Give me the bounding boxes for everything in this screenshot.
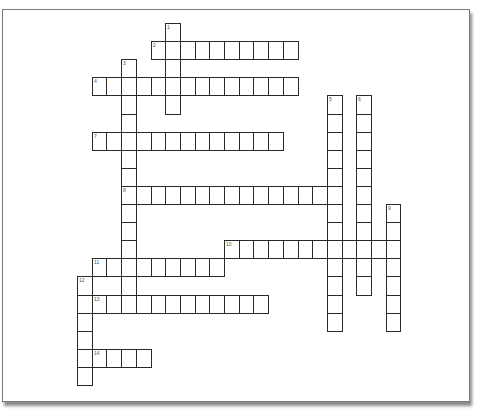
crossword-cell[interactable] bbox=[386, 276, 401, 296]
crossword-cell[interactable] bbox=[121, 276, 137, 296]
crossword-cell[interactable] bbox=[165, 95, 181, 115]
crossword-cell[interactable] bbox=[224, 186, 240, 205]
crossword-cell[interactable] bbox=[342, 240, 357, 259]
crossword-cell[interactable] bbox=[268, 186, 284, 205]
crossword-cell[interactable] bbox=[106, 77, 122, 96]
crossword-cell[interactable] bbox=[195, 186, 210, 205]
crossword-cell[interactable] bbox=[195, 77, 210, 96]
crossword-cell[interactable] bbox=[77, 349, 93, 368]
crossword-cell[interactable] bbox=[386, 222, 401, 241]
crossword-cell[interactable] bbox=[136, 77, 152, 96]
crossword-cell[interactable] bbox=[327, 222, 343, 241]
crossword-cell[interactable] bbox=[283, 77, 299, 96]
crossword-cell[interactable] bbox=[165, 41, 181, 60]
crossword-cell[interactable] bbox=[165, 59, 181, 78]
crossword-cell[interactable] bbox=[106, 295, 122, 314]
crossword-cell[interactable] bbox=[283, 240, 299, 259]
crossword-cell[interactable] bbox=[253, 77, 269, 96]
crossword-cell[interactable] bbox=[239, 295, 254, 314]
crossword-cell[interactable]: 8 bbox=[121, 186, 137, 205]
crossword-cell[interactable] bbox=[136, 349, 152, 368]
crossword-cell[interactable]: 1 bbox=[165, 23, 181, 42]
crossword-cell[interactable] bbox=[106, 258, 122, 277]
crossword-cell[interactable] bbox=[165, 77, 181, 96]
crossword-cell[interactable]: 6 bbox=[356, 95, 372, 115]
crossword-cell[interactable] bbox=[371, 240, 387, 259]
crossword-cell[interactable] bbox=[209, 258, 225, 277]
crossword-cell[interactable] bbox=[356, 114, 372, 133]
crossword-cell[interactable] bbox=[298, 240, 313, 259]
crossword-cell[interactable] bbox=[77, 331, 93, 350]
crossword-cell[interactable] bbox=[253, 240, 269, 259]
crossword-cell[interactable] bbox=[165, 295, 181, 314]
crossword-cell[interactable] bbox=[209, 132, 225, 151]
crossword-cell[interactable] bbox=[239, 186, 254, 205]
crossword-cell[interactable] bbox=[180, 295, 196, 314]
crossword-cell[interactable] bbox=[121, 114, 137, 133]
crossword-cell[interactable]: 14 bbox=[92, 349, 107, 368]
crossword-cell[interactable] bbox=[253, 132, 269, 151]
crossword-cell[interactable] bbox=[151, 295, 166, 314]
crossword-cell[interactable] bbox=[195, 41, 210, 60]
crossword-cell[interactable] bbox=[312, 240, 328, 259]
crossword-cell[interactable] bbox=[327, 168, 343, 187]
crossword-cell[interactable] bbox=[268, 41, 284, 60]
crossword-cell[interactable] bbox=[386, 240, 401, 259]
crossword-cell[interactable] bbox=[253, 186, 269, 205]
crossword-cell[interactable] bbox=[386, 313, 401, 332]
crossword-cell[interactable] bbox=[180, 77, 196, 96]
crossword-cell[interactable]: 12 bbox=[77, 276, 93, 296]
crossword-cell[interactable] bbox=[224, 77, 240, 96]
crossword-cell[interactable] bbox=[239, 240, 254, 259]
crossword-cell[interactable] bbox=[106, 132, 122, 151]
crossword-cell[interactable] bbox=[356, 204, 372, 223]
crossword-cell[interactable] bbox=[224, 41, 240, 60]
crossword-cell[interactable] bbox=[356, 168, 372, 187]
crossword-cell[interactable] bbox=[209, 77, 225, 96]
crossword-cell[interactable] bbox=[239, 77, 254, 96]
crossword-cell[interactable] bbox=[327, 114, 343, 133]
crossword-cell[interactable] bbox=[209, 186, 225, 205]
crossword-cell[interactable] bbox=[121, 204, 137, 223]
crossword-cell[interactable]: 2 bbox=[151, 41, 166, 60]
crossword-cell[interactable] bbox=[327, 186, 343, 205]
crossword-cell[interactable] bbox=[268, 240, 284, 259]
crossword-cell[interactable] bbox=[224, 295, 240, 314]
crossword-cell[interactable] bbox=[77, 367, 93, 386]
crossword-cell[interactable] bbox=[356, 186, 372, 205]
crossword-cell[interactable] bbox=[327, 204, 343, 223]
crossword-cell[interactable] bbox=[209, 295, 225, 314]
crossword-cell[interactable] bbox=[356, 132, 372, 151]
crossword-cell[interactable] bbox=[136, 186, 152, 205]
crossword-cell[interactable] bbox=[77, 313, 93, 332]
crossword-cell[interactable] bbox=[180, 186, 196, 205]
crossword-cell[interactable] bbox=[253, 41, 269, 60]
crossword-cell[interactable] bbox=[239, 41, 254, 60]
crossword-cell[interactable] bbox=[195, 132, 210, 151]
crossword-cell[interactable] bbox=[106, 349, 122, 368]
crossword-cell[interactable] bbox=[283, 41, 299, 60]
crossword-cell[interactable] bbox=[268, 77, 284, 96]
crossword-cell[interactable] bbox=[356, 150, 372, 169]
crossword-cell[interactable] bbox=[239, 132, 254, 151]
crossword-cell[interactable] bbox=[121, 132, 137, 151]
crossword-cell[interactable] bbox=[180, 258, 196, 277]
crossword-cell[interactable] bbox=[327, 240, 343, 259]
crossword-cell[interactable]: 11 bbox=[92, 258, 107, 277]
crossword-cell[interactable] bbox=[327, 313, 343, 332]
crossword-cell[interactable] bbox=[356, 222, 372, 241]
crossword-cell[interactable] bbox=[386, 295, 401, 314]
crossword-cell[interactable] bbox=[121, 349, 137, 368]
crossword-cell[interactable] bbox=[121, 150, 137, 169]
crossword-cell[interactable] bbox=[386, 258, 401, 277]
crossword-cell[interactable] bbox=[151, 77, 166, 96]
crossword-cell[interactable] bbox=[151, 132, 166, 151]
crossword-cell[interactable]: 3 bbox=[121, 59, 137, 78]
crossword-cell[interactable] bbox=[195, 258, 210, 277]
crossword-cell[interactable] bbox=[136, 258, 152, 277]
crossword-cell[interactable] bbox=[283, 186, 299, 205]
crossword-cell[interactable] bbox=[356, 276, 372, 296]
crossword-cell[interactable] bbox=[327, 295, 343, 314]
crossword-cell[interactable] bbox=[136, 132, 152, 151]
crossword-cell[interactable] bbox=[121, 168, 137, 187]
